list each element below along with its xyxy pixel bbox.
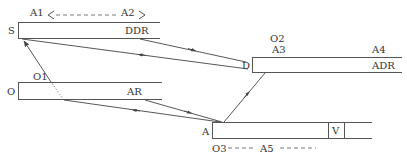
bar-s-inner-label: DDR	[125, 25, 149, 36]
label-o3: O3	[212, 143, 227, 154]
arrow-up-icon	[244, 93, 248, 98]
range-annotation-bottom: O3 A5	[212, 143, 316, 154]
bar-s: S DDR	[8, 22, 160, 39]
bar-a-label: A	[201, 126, 210, 137]
connection-d-to-s	[22, 39, 248, 69]
bar-a: A V	[201, 122, 372, 139]
bar-d: O2 A3 A4 D ADR	[242, 33, 402, 73]
label-a3: A3	[271, 44, 286, 55]
chevron-right-icon	[139, 11, 145, 19]
memory-diagram: A1 A2 S DDR O2 A3 A4 D ADR O1 O AR A	[0, 0, 407, 160]
label-o2: O2	[270, 33, 285, 44]
connection-o-to-a	[145, 100, 222, 122]
bar-o-label: O	[7, 86, 15, 97]
label-a4: A4	[371, 44, 386, 55]
chevron-left-icon	[48, 11, 54, 19]
label-a1: A1	[29, 7, 44, 18]
arrow-right-icon	[184, 111, 190, 113]
bar-a-cell-label: V	[331, 125, 340, 136]
label-a5: A5	[259, 143, 274, 154]
bar-o-inner-label: AR	[126, 86, 142, 97]
label-a2: A2	[120, 7, 135, 18]
bar-d-inner-label: ADR	[371, 60, 395, 71]
connection-a-to-o	[64, 100, 220, 122]
bar-s-label: S	[8, 25, 15, 36]
connection-a-to-d	[224, 73, 265, 122]
bar-o: O1 O AR	[7, 71, 162, 100]
range-annotation-top: A1 A2	[29, 7, 145, 19]
connection-s-to-d	[140, 39, 246, 62]
arrow-left-icon	[140, 55, 146, 56]
